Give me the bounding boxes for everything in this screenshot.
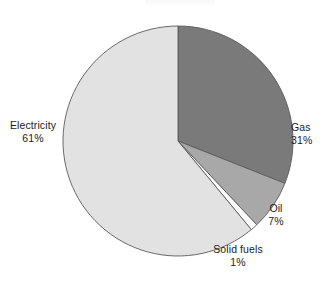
- pie-chart-figure: Electricity 61% Gas 31% Oil 7% Solid fue…: [0, 0, 323, 282]
- slice-label-gas-name: Gas: [291, 121, 323, 134]
- slice-label-electricity-value: 61%: [0, 132, 66, 145]
- slice-label-gas: Gas 31%: [291, 121, 323, 146]
- slice-label-gas-value: 31%: [291, 134, 323, 147]
- slice-label-oil-name: Oil: [252, 202, 300, 215]
- slice-label-solid-fuels: Solid fuels 1%: [188, 243, 288, 268]
- slice-label-solid-fuels-name: Solid fuels: [188, 243, 288, 256]
- slice-label-electricity-name: Electricity: [0, 119, 66, 132]
- slice-label-solid-fuels-value: 1%: [188, 256, 288, 269]
- slice-label-oil-value: 7%: [252, 215, 300, 228]
- slice-label-electricity: Electricity 61%: [0, 119, 66, 144]
- slice-label-oil: Oil 7%: [252, 202, 300, 227]
